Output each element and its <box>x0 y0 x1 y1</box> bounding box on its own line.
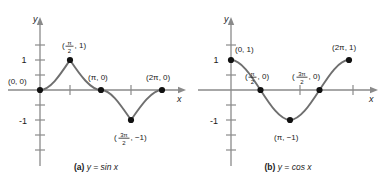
data-point <box>257 87 263 93</box>
x-axis-cosine <box>198 87 378 93</box>
point-label-three-half-pi-suffix: , 0) <box>309 72 321 81</box>
point-label-pi: (π, 0) <box>88 73 108 82</box>
point-label-min-denominator: 2 <box>122 140 126 146</box>
data-point <box>346 57 352 63</box>
point-label-origin: (0, 1) <box>235 45 254 54</box>
data-point <box>316 87 322 93</box>
data-point <box>159 87 165 93</box>
caption-cosine: (b) y = cos x <box>192 162 384 173</box>
point-label-three-half-pi-prefix: ( <box>292 72 295 81</box>
point-label-min: ( 3π 2 , −1) <box>114 132 147 146</box>
y-axis-label: y <box>32 14 38 24</box>
x-axis-label: x <box>368 94 374 104</box>
sine-plot: y x 1 -1 (0, 0) ( π 2 , 1) <box>0 0 192 172</box>
y-axis-cosine <box>228 17 234 166</box>
point-label-three-half-pi-numerator: 3π <box>298 71 305 77</box>
data-point <box>67 57 73 63</box>
caption-sine: (a) y = sin x <box>0 162 192 173</box>
y-axis-label: y <box>223 14 229 24</box>
point-label-three-half-pi: ( 3π 2 , 0) <box>292 71 320 85</box>
point-label-max: ( π 2 , 1) <box>62 40 86 54</box>
cosine-plot: y x 1 -1 (0, 1) ( π 2 , 0) <box>192 0 384 172</box>
point-label-max-suffix: , 1) <box>75 41 87 50</box>
point-label-2pi: (2π, 1) <box>332 43 357 52</box>
point-label-max-prefix: ( <box>62 41 65 50</box>
point-label-max-denominator: 2 <box>68 48 72 54</box>
data-point <box>37 87 43 93</box>
point-label-min: (π, −1) <box>274 133 299 142</box>
point-label-min-prefix: ( <box>114 133 117 142</box>
y-tick-label-1: 1 <box>213 55 218 65</box>
caption-tag-a: (a) <box>74 162 84 172</box>
caption-expression-a: y = sin x <box>87 162 118 172</box>
point-label-min-suffix: , −1) <box>131 133 148 142</box>
point-label-half-pi-suffix: , 0) <box>258 72 270 81</box>
data-point <box>228 57 234 63</box>
point-label-origin: (0, 0) <box>8 77 27 86</box>
point-label-half-pi-prefix: ( <box>245 72 248 81</box>
panel-sine: y x 1 -1 (0, 0) ( π 2 , 1) <box>0 0 192 192</box>
y-tick-label-1: 1 <box>21 55 26 65</box>
point-label-min-numerator: 3π <box>120 132 127 138</box>
trig-graphs-figure: y x 1 -1 (0, 0) ( π 2 , 1) <box>0 0 384 192</box>
point-label-2pi: (2π, 0) <box>146 73 171 82</box>
data-point <box>128 117 134 123</box>
x-axis-label: x <box>176 94 182 104</box>
y-tick-label-neg1: -1 <box>19 116 27 126</box>
y-tick-label-neg1: -1 <box>210 116 218 126</box>
data-point <box>287 117 293 123</box>
point-label-three-half-pi-denominator: 2 <box>300 79 304 85</box>
caption-tag-b: (b) <box>264 162 275 172</box>
panel-cosine: y x 1 -1 (0, 1) ( π 2 , 0) <box>192 0 384 192</box>
data-point <box>98 87 104 93</box>
point-label-max-numerator: π <box>67 40 71 46</box>
caption-expression-b: y = cos x <box>278 162 312 172</box>
point-label-half-pi-numerator: π <box>250 71 254 77</box>
